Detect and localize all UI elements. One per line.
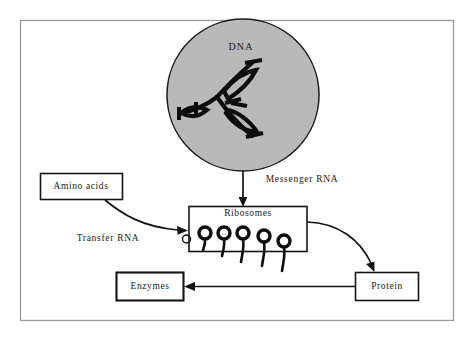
ribosomes-to-protein-arrowhead (366, 262, 375, 272)
amino-acids-label: Amino acids (54, 181, 109, 191)
transfer-rna-arrow (105, 200, 188, 235)
protein-label: Protein (371, 281, 403, 291)
enzymes-node: Enzymes (117, 273, 184, 301)
ribosomes-to-protein-arrow (307, 222, 375, 272)
protein-to-enzymes-arrowhead (184, 282, 195, 291)
ribosomes-label: Ribosomes (224, 208, 272, 218)
ribosomes-to-protein-curve (307, 222, 371, 263)
transfer-rna-curve (105, 200, 178, 230)
protein-synthesis-diagram: DNA Messenger RNA Ribosomes (0, 0, 473, 338)
ribosomes-node: Ribosomes (183, 207, 308, 272)
protein-to-enzymes-arrow (184, 282, 355, 291)
enzymes-label: Enzymes (130, 281, 169, 291)
transfer-rna-label: Transfer RNA (77, 233, 140, 243)
dna-nucleus: DNA (167, 19, 319, 171)
messenger-rna-label: Messenger RNA (266, 174, 339, 184)
amino-acids-node: Amino acids (41, 174, 123, 200)
transfer-rna-arrowhead (177, 226, 188, 235)
messenger-rna-arrow (239, 171, 248, 207)
dna-label: DNA (229, 41, 254, 52)
protein-node: Protein (356, 273, 419, 301)
messenger-rna-arrowhead (239, 197, 248, 207)
